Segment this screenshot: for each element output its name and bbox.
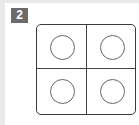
two-by-two-grid bbox=[36, 24, 136, 115]
number-badge: 2 bbox=[11, 8, 28, 23]
circle-icon bbox=[50, 79, 75, 104]
circle-icon bbox=[50, 35, 75, 60]
grid-cell-bottom-left bbox=[37, 69, 87, 113]
circle-icon bbox=[100, 35, 125, 60]
circle-icon bbox=[100, 79, 125, 104]
grid-cell-top-right bbox=[87, 25, 137, 69]
grid-cell-bottom-right bbox=[87, 69, 137, 113]
figure-panel: 2 bbox=[0, 0, 139, 125]
grid-cell-top-left bbox=[37, 25, 87, 69]
